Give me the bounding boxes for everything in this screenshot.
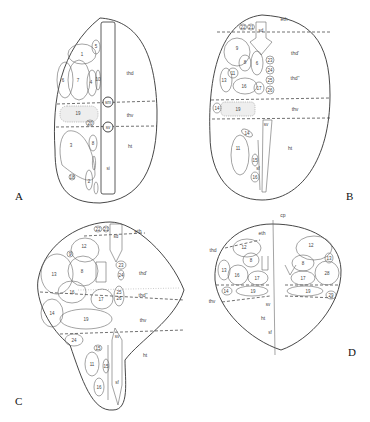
panel-a: 1 5 6 7 4 10 19 20 3 8 2 18 thd thv ht s… xyxy=(15,18,157,203)
midline-a-si: si xyxy=(106,166,109,171)
label-c-16b: 16 xyxy=(96,385,102,390)
label-c-11: 11 xyxy=(90,362,95,367)
region-c-thd2: thd'' xyxy=(139,292,148,298)
label-d-16-left: 16 xyxy=(234,273,240,278)
label-b-14b: 14 xyxy=(244,131,250,136)
region-d-ht: ht xyxy=(261,315,266,321)
label-c-24: 24 xyxy=(118,273,124,278)
midline-c-sd: sd xyxy=(114,234,119,239)
label-c-16: 16 xyxy=(69,290,75,295)
label-b-13: 13 xyxy=(221,78,227,83)
panel-d: 12 8 13 16 17 14 19 12 8 13 28 17 19 29 … xyxy=(209,212,356,358)
label-d-29-right: 29 xyxy=(328,293,334,298)
label-b-16: 16 xyxy=(241,84,247,89)
region-b-thd2: thd'' xyxy=(291,75,300,81)
label-b-14: 14 xyxy=(214,106,220,111)
region-a-thd: thd xyxy=(127,70,134,76)
label-a-20: 20 xyxy=(87,121,93,126)
label-d-19-left: 19 xyxy=(250,289,256,294)
label-b-11b: 11 xyxy=(236,146,241,151)
panel-label-b: B xyxy=(346,190,353,202)
label-b-23: 23 xyxy=(267,58,273,63)
label-b-17: 17 xyxy=(256,86,262,91)
midline-b-sd: sd xyxy=(259,28,264,33)
label-c-19: 19 xyxy=(83,317,89,322)
panel-label-c: C xyxy=(15,395,22,407)
label-b-26: 26 xyxy=(267,88,273,93)
label-c-25: 25 xyxy=(116,290,122,295)
label-c-15b: 15 xyxy=(103,364,109,369)
label-c-12: 12 xyxy=(81,244,87,249)
label-b-15: 15 xyxy=(252,158,258,163)
region-c-eth: eth xyxy=(135,228,142,234)
region-b-thv: thv xyxy=(292,106,299,112)
label-a-18: 18 xyxy=(69,175,75,180)
region-c-thd1: thd' xyxy=(139,270,147,276)
label-d-28-right: 28 xyxy=(324,271,330,276)
region-b-thd1: thd' xyxy=(291,50,299,56)
midline-c-sv: sv xyxy=(115,334,120,339)
region-d-thv: thv xyxy=(209,298,216,304)
panel-label-d: D xyxy=(348,346,356,358)
label-b-21: 21 xyxy=(248,25,254,30)
label-d-12-right: 12 xyxy=(308,243,314,248)
label-b-22: 22 xyxy=(240,25,246,30)
label-c-15: 15 xyxy=(95,346,101,351)
region-a-ht: ht xyxy=(128,143,133,149)
label-d-17-left: 17 xyxy=(254,276,260,281)
region-d-eth: eth xyxy=(259,230,266,236)
label-a-19: 19 xyxy=(75,111,81,116)
midline-b-sv: sv xyxy=(264,122,269,127)
region-b-ht: ht xyxy=(288,145,293,151)
label-c-24b: 24 xyxy=(71,338,77,343)
midline-d-cp: cp xyxy=(280,212,286,218)
midline-a-sm: sm xyxy=(105,100,111,105)
label-d-14-left: 14 xyxy=(223,289,229,294)
region-d-thd: thd xyxy=(210,247,217,253)
label-b-16b: 16 xyxy=(252,175,258,180)
label-b-11: 11 xyxy=(231,71,236,76)
region-b-eth: eth xyxy=(281,16,288,22)
label-c-23: 23 xyxy=(118,263,124,268)
midline-a-sv: sv xyxy=(106,125,111,130)
label-c-22: 22 xyxy=(95,227,101,232)
midline-d-sv: sv xyxy=(266,302,271,307)
label-c-13: 13 xyxy=(51,272,57,277)
label-c-26: 26 xyxy=(116,296,122,301)
label-d-13-left: 13 xyxy=(221,268,227,273)
label-c-21: 21 xyxy=(103,227,109,232)
panel-label-a: A xyxy=(15,190,23,202)
label-d-19-right: 19 xyxy=(305,289,311,294)
label-b-24: 24 xyxy=(267,68,273,73)
region-c-ht: ht xyxy=(143,352,148,358)
label-d-17-right: 17 xyxy=(300,276,306,281)
panel-b: 22 21 9 8 6 23 24 11 13 16 17 25 26 14 1… xyxy=(210,15,354,202)
figure-drawing: 1 5 6 7 4 10 19 20 3 8 2 18 thd thv ht s… xyxy=(0,0,370,422)
label-b-19: 19 xyxy=(235,107,241,112)
label-c-14: 14 xyxy=(49,311,55,316)
label-a-10: 10 xyxy=(95,77,101,82)
anatomical-figure: 1 5 6 7 4 10 19 20 3 8 2 18 thd thv ht s… xyxy=(0,0,370,422)
region-c-thv: thv xyxy=(140,317,147,323)
label-b-25: 25 xyxy=(267,78,273,83)
label-c-17: 17 xyxy=(98,297,104,302)
label-d-13-right: 13 xyxy=(326,256,332,261)
panel-c: 22 21 12 9 8 13 16 17 23 24 25 26 14 19 … xyxy=(15,222,184,410)
region-a-thv: thv xyxy=(127,112,134,118)
label-d-12-left: 12 xyxy=(241,245,247,250)
